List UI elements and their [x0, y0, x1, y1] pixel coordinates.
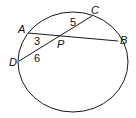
point-label-a: A — [17, 23, 25, 35]
segment-label-pc: 5 — [70, 16, 76, 28]
segment-label-ap: 3 — [34, 35, 40, 47]
point-label-p: P — [57, 38, 65, 50]
point-label-c: C — [91, 4, 99, 16]
chord-ab — [28, 33, 118, 41]
segment-label-dp: 6 — [34, 52, 40, 64]
point-label-b: B — [120, 34, 127, 46]
chord-diagram: A B C D P 5 3 6 — [0, 0, 136, 118]
chord-cd — [19, 16, 92, 61]
point-label-d: D — [9, 56, 17, 68]
